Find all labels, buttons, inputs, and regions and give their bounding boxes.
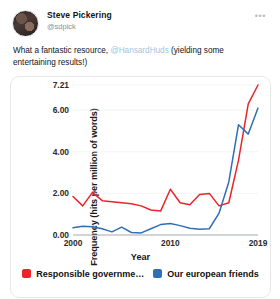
y-tick-label: 4.00	[33, 147, 69, 157]
series-line	[73, 108, 258, 233]
chart-legend: Responsible governme…Our european friend…	[11, 269, 270, 279]
tweet-card: Steve Pickering @sdpick ••• What a fanta…	[0, 0, 280, 299]
legend-swatch	[22, 269, 31, 278]
author-display-name[interactable]: Steve Pickering	[47, 11, 112, 21]
legend-label: Our european friends	[167, 269, 259, 279]
y-tick-label: 2.00	[33, 188, 69, 198]
legend-swatch	[153, 269, 162, 278]
series-line	[73, 85, 258, 211]
tweet-body-text: What a fantastic resource, @HansardHuds …	[0, 37, 280, 69]
legend-label: Responsible governme…	[36, 269, 144, 279]
plot-area	[73, 85, 258, 235]
author-handle[interactable]: @sdpick	[47, 23, 112, 31]
more-options-icon[interactable]: •••	[255, 10, 270, 21]
chart-inner: Frequency (hits per million of words) 0.…	[11, 77, 270, 297]
tweet-text-before: What a fantastic resource,	[13, 46, 110, 55]
x-tick-label: 2000	[64, 238, 83, 248]
y-tick-label: 6.00	[33, 105, 69, 115]
tweet-mention-link[interactable]: @HansardHuds	[110, 46, 168, 55]
legend-item[interactable]: Our european friends	[153, 269, 259, 279]
avatar[interactable]	[12, 10, 39, 37]
x-tick-label: 2010	[161, 238, 180, 248]
tweet-header: Steve Pickering @sdpick •••	[0, 0, 280, 37]
author-info: Steve Pickering @sdpick	[47, 10, 112, 31]
x-axis-label: Year	[11, 252, 270, 262]
chart-card[interactable]: Frequency (hits per million of words) 0.…	[10, 76, 271, 298]
legend-item[interactable]: Responsible governme…	[22, 269, 144, 279]
line-chart-svg	[73, 85, 258, 235]
x-tick-label: 2019	[249, 238, 268, 248]
y-tick-label: 7.21	[33, 80, 69, 90]
